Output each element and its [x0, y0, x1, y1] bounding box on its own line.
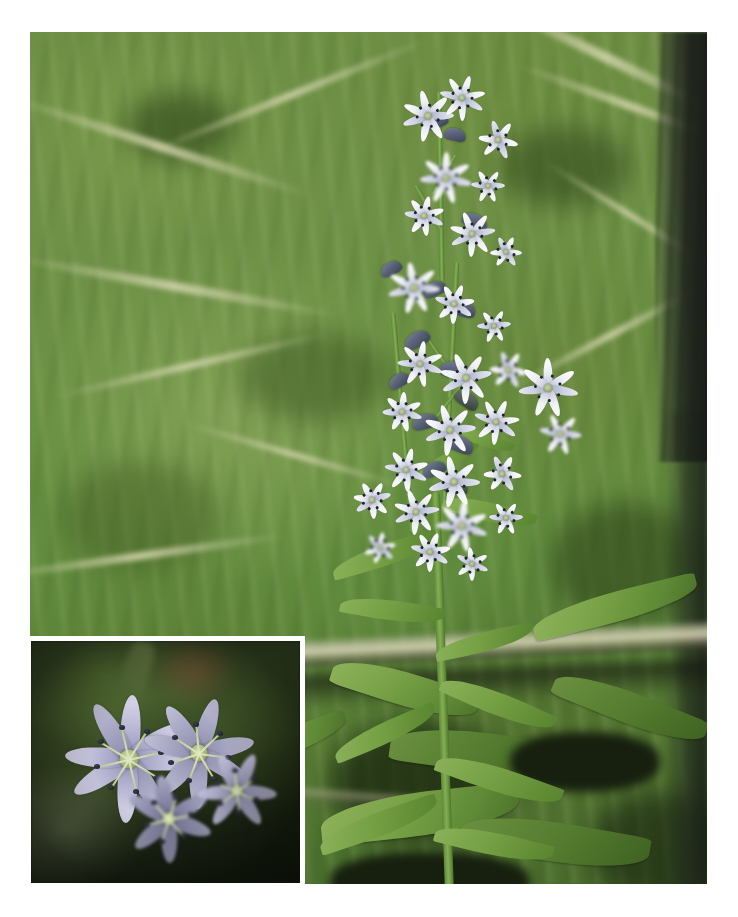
flower-center — [495, 137, 501, 143]
anther — [464, 366, 467, 369]
anther — [476, 568, 480, 572]
closeup-inset-photograph — [31, 641, 300, 883]
flower-center — [451, 301, 457, 307]
plant-leaf — [339, 591, 446, 630]
anther — [387, 547, 390, 550]
anther — [499, 429, 503, 433]
anther — [460, 535, 463, 538]
anther — [504, 133, 508, 137]
flower-center — [469, 231, 475, 237]
anther — [567, 436, 571, 440]
flower-center — [403, 467, 409, 473]
flower-center — [459, 95, 465, 101]
inset-anther — [159, 839, 165, 844]
inset-anther — [144, 822, 150, 827]
flower-center — [451, 479, 458, 486]
anther — [411, 475, 415, 479]
flower-center — [378, 546, 383, 551]
anther — [370, 546, 373, 549]
anther — [468, 531, 472, 535]
anther — [507, 466, 511, 470]
flower-center — [504, 516, 509, 521]
flower-center — [544, 384, 552, 392]
anther — [475, 378, 479, 382]
flower-center — [417, 361, 423, 367]
inset-anther — [215, 781, 221, 786]
anther — [550, 374, 554, 378]
inset-anther — [251, 777, 257, 782]
anther — [497, 148, 500, 151]
flower-center — [425, 113, 432, 120]
inset-anther — [236, 810, 242, 815]
anther — [512, 253, 516, 257]
plant-leaf — [330, 702, 440, 764]
anther — [480, 234, 484, 238]
inset-anther — [217, 731, 223, 736]
flower-center — [463, 375, 470, 382]
flower-center — [411, 285, 418, 292]
anther — [471, 222, 474, 225]
anther — [428, 221, 432, 225]
flower-center — [557, 431, 563, 437]
plant-leaf — [438, 669, 557, 740]
plant-leaf — [433, 746, 564, 815]
inset-frame — [27, 637, 304, 887]
anther — [504, 422, 507, 425]
anther — [513, 362, 517, 366]
plant-leaf — [315, 793, 442, 855]
anther — [415, 500, 418, 503]
flower-center — [427, 549, 433, 555]
anther — [382, 539, 386, 543]
flower-center — [459, 523, 466, 530]
anther — [478, 560, 482, 564]
inset-background-brown-patch — [151, 641, 241, 705]
flower-center — [399, 409, 405, 415]
anther — [494, 187, 498, 191]
flower-center — [493, 419, 499, 425]
flower-center — [492, 324, 497, 329]
anther — [380, 499, 383, 502]
flower-center — [504, 250, 509, 255]
anther — [566, 426, 570, 430]
anther — [557, 393, 561, 397]
anther — [453, 182, 457, 186]
flower-center — [499, 471, 505, 477]
anther — [402, 287, 405, 290]
flower-center — [369, 497, 375, 503]
flower-center — [421, 213, 427, 219]
inset-anther — [172, 735, 178, 740]
flower-center — [486, 184, 491, 189]
plant-leaf — [433, 622, 535, 662]
anther — [400, 420, 403, 423]
anther — [471, 97, 474, 100]
flower-center — [470, 562, 475, 567]
inset-anther — [144, 729, 150, 734]
flower-center — [443, 175, 450, 182]
anther — [415, 468, 418, 471]
inset-anther — [151, 800, 157, 805]
flower-center — [413, 509, 419, 515]
anther — [424, 513, 428, 517]
anther — [466, 104, 470, 108]
flower-bud — [443, 126, 467, 143]
anther — [425, 369, 429, 373]
inset-anther — [119, 725, 125, 730]
flower-center — [447, 427, 454, 434]
page-canvas — [0, 0, 738, 917]
anther — [510, 244, 514, 248]
anther — [496, 129, 499, 132]
anther — [500, 326, 504, 330]
anther — [407, 416, 411, 420]
flower-center — [505, 367, 511, 373]
